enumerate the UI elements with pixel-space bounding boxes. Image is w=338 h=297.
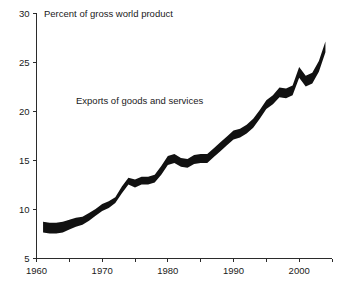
x-tick-label-1960: 1960 <box>26 265 47 276</box>
y-tick-label-15: 15 <box>19 155 30 166</box>
plot-band-group <box>43 41 325 233</box>
x-tick-label-1970: 1970 <box>92 265 113 276</box>
y-axis-group: 51015202530 <box>19 8 37 264</box>
axis-title-label: Percent of gross world product <box>44 8 173 19</box>
exports-band-area <box>43 41 325 233</box>
y-tick-label-5: 5 <box>24 253 29 264</box>
y-tick-label-10: 10 <box>19 204 30 215</box>
y-axis-ticks <box>33 13 37 258</box>
x-tick-label-2000: 2000 <box>289 265 310 276</box>
y-axis-tick-labels: 51015202530 <box>19 8 30 264</box>
y-tick-label-20: 20 <box>19 106 30 117</box>
y-tick-label-25: 25 <box>19 57 30 68</box>
chart-container: 51015202530 19601970198019902000 Percent… <box>0 0 338 297</box>
x-axis-group: 19601970198019902000 <box>26 259 332 277</box>
x-axis-ticks <box>37 259 333 262</box>
x-axis-tick-labels: 19601970198019902000 <box>26 265 310 276</box>
series-inline-label: Exports of goods and services <box>76 95 204 106</box>
x-tick-label-1980: 1980 <box>157 265 178 276</box>
exports-band-chart: 51015202530 19601970198019902000 Percent… <box>0 0 338 297</box>
x-tick-label-1990: 1990 <box>223 265 244 276</box>
y-tick-label-30: 30 <box>19 8 30 19</box>
